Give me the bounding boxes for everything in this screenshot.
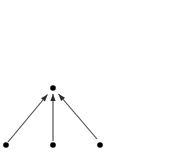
edge-middle-to-apex[interactable] [50,94,55,141]
graph-node-left[interactable] [3,142,9,148]
edge-line [59,94,98,139]
edge-group [8,94,97,142]
graph-svg [0,0,184,161]
edge-left-to-apex[interactable] [8,95,48,143]
graph-node-middle[interactable] [50,142,56,148]
graph-node-right[interactable] [97,142,103,148]
edge-right-to-apex[interactable] [59,94,98,139]
arrowhead-icon [50,94,55,101]
graph-node-apex[interactable] [50,85,56,91]
diagram-canvas [0,0,184,161]
edge-line [8,95,48,143]
